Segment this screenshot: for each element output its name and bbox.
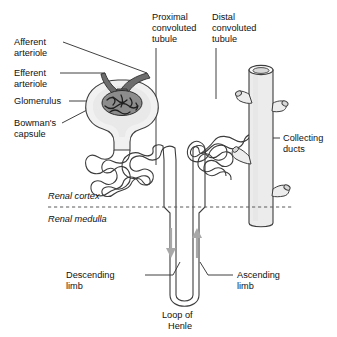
distal-label-line1: Distal xyxy=(212,12,235,22)
descending-flow-arrow xyxy=(166,228,176,258)
loop-of-henle-label-line2: Henle xyxy=(168,321,192,331)
collecting-duct-body xyxy=(249,70,273,227)
descending-limb-label-line2: limb xyxy=(66,281,83,291)
collecting-duct-branch-lower-right xyxy=(272,184,291,197)
leader-afferent-arteriole xyxy=(63,42,147,73)
afferent-arteriole-label-line1: Afferent xyxy=(14,37,46,47)
efferent-arteriole-label-line1: Efferent xyxy=(14,68,46,78)
ascending-limb-label-line2: limb xyxy=(237,281,254,291)
henle-loop-bend-inner xyxy=(176,295,193,301)
renal-cortex-label: Renal cortex xyxy=(48,191,100,201)
bowmans-capsule-label-line2: capsule xyxy=(14,129,46,139)
loop-of-henle-label-line1: Loop of xyxy=(162,310,193,320)
leader-ascending-limb xyxy=(200,262,233,275)
label-descending-limb: Descending limb xyxy=(66,270,115,291)
label-proximal-convoluted-tubule: Proximal convoluted tubule xyxy=(152,12,196,44)
label-distal-convoluted-tubule: Distal convoluted tubule xyxy=(212,12,256,44)
collecting-duct-branch-upper-right xyxy=(272,100,289,112)
collecting-ducts-label-line1: Collecting xyxy=(283,133,323,143)
proximal-label-line2: convoluted xyxy=(152,23,196,33)
nephron-diagram: Afferent arteriole Efferent arteriole Gl… xyxy=(0,0,337,337)
collecting-ducts-label-line2: ducts xyxy=(283,144,305,154)
label-afferent-arteriole: Afferent arteriole xyxy=(14,37,47,58)
label-bowmans-capsule: Bowman's capsule xyxy=(14,118,56,139)
afferent-arteriole-label-line2: arteriole xyxy=(14,48,47,58)
efferent-arteriole-label-line2: arteriole xyxy=(14,79,47,89)
bowmans-capsule-label-line1: Bowman's xyxy=(14,118,56,128)
label-collecting-ducts: Collecting ducts xyxy=(283,133,323,154)
renal-corpuscle xyxy=(86,73,159,150)
proximal-label-line3: tubule xyxy=(152,34,177,44)
distal-label-line2: convoluted xyxy=(212,23,256,33)
label-efferent-arteriole: Efferent arteriole xyxy=(14,68,47,89)
renal-medulla-label: Renal medulla xyxy=(48,214,107,224)
descending-limb-label-line1: Descending xyxy=(66,270,115,280)
label-loop-of-henle: Loop of Henle xyxy=(162,310,193,331)
distal-label-line3: tubule xyxy=(212,34,237,44)
collecting-duct-highlight xyxy=(253,73,258,221)
glomerulus-label: Glomerulus xyxy=(14,96,61,106)
leader-descending-limb xyxy=(145,262,180,275)
collecting-duct-branch-mid-left xyxy=(231,146,251,164)
proximal-convoluted-tubule xyxy=(86,145,176,197)
ascending-limb-label-line1: Ascending xyxy=(237,270,280,280)
proximal-label-line1: Proximal xyxy=(152,12,188,22)
leader-bowmans-capsule xyxy=(62,110,87,123)
loop-of-henle xyxy=(164,146,205,307)
label-ascending-limb: Ascending limb xyxy=(237,270,280,291)
collecting-duct-lumen xyxy=(253,68,269,74)
